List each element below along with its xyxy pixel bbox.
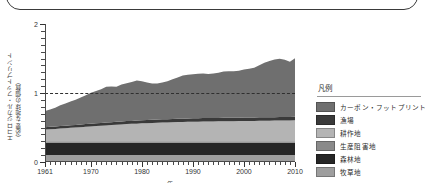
- y-axis-tick: [41, 128, 45, 129]
- y-axis-tick: [41, 148, 45, 149]
- x-axis-tick: [91, 162, 92, 167]
- x-axis-tick-label: 2000: [236, 168, 252, 175]
- x-axis-tick: [295, 162, 296, 167]
- x-axis-tick: [157, 162, 158, 165]
- x-axis-tick-label: 1990: [185, 168, 201, 175]
- x-axis-line: [45, 161, 295, 162]
- x-axis-tick: [147, 162, 148, 165]
- y-axis-tick: [41, 121, 45, 122]
- x-axis-tick: [142, 162, 143, 167]
- x-axis-tick: [193, 162, 194, 167]
- x-axis-tick: [45, 162, 46, 167]
- y-axis-tick: [41, 114, 45, 115]
- x-axis-tick: [65, 162, 66, 165]
- y-axis-tick: [41, 107, 45, 108]
- legend-item-label: 牧草地: [340, 167, 362, 177]
- legend-swatch-icon: [316, 141, 335, 151]
- legend-item-list: カーボン・フットプリント漁場耕作地生産阻害地森林地牧草地: [316, 101, 429, 178]
- plot-area: 012 196119701980199020002010 年: [45, 24, 295, 162]
- y-axis-tick: [41, 65, 45, 66]
- x-axis-tick: [167, 162, 168, 165]
- legend-item-label: 漁場: [340, 115, 354, 125]
- legend-item[interactable]: 漁場: [316, 114, 429, 126]
- ecological-footprint-chart: エコロジカル・フットプリント （必要な地球の個数） 012 1961197019…: [0, 14, 310, 183]
- x-axis-tick: [101, 162, 102, 165]
- y-axis-tick: [41, 45, 45, 46]
- y-axis-tick: [41, 79, 45, 80]
- x-axis-tick: [50, 162, 51, 165]
- y-axis-tick: [40, 24, 45, 25]
- x-axis-tick: [173, 162, 174, 165]
- y-axis-title-line2: （必要な地球の個数）: [16, 78, 22, 141]
- legend-item[interactable]: 耕作地: [316, 127, 429, 139]
- x-axis-tick: [178, 162, 179, 165]
- y-axis-tick: [41, 72, 45, 73]
- y-axis-tick: [40, 93, 45, 94]
- legend-item-label: カーボン・フットプリント: [340, 102, 426, 112]
- legend-title: 凡例: [318, 82, 429, 93]
- legend-item-label: 森林地: [340, 154, 362, 164]
- x-axis-tick: [76, 162, 77, 165]
- x-axis-tick: [116, 162, 117, 165]
- x-axis-tick: [203, 162, 204, 165]
- y-axis-tick: [41, 134, 45, 135]
- y-axis-tick: [41, 86, 45, 87]
- y-axis-tick: [41, 52, 45, 53]
- x-axis-tick: [285, 162, 286, 165]
- x-axis-tick: [81, 162, 82, 165]
- x-axis-tick: [290, 162, 291, 165]
- legend-swatch-icon: [316, 154, 335, 164]
- x-axis-tick: [208, 162, 209, 165]
- x-axis-tick: [239, 162, 240, 165]
- legend: 凡例 カーボン・フットプリント漁場耕作地生産阻害地森林地牧草地: [316, 82, 429, 179]
- y-axis-tick: [41, 100, 45, 101]
- y-axis-tick-label: 0: [34, 159, 38, 166]
- x-axis-tick: [254, 162, 255, 165]
- x-axis-tick: [60, 162, 61, 165]
- x-axis-tick: [152, 162, 153, 165]
- y-axis-tick: [41, 59, 45, 60]
- y-axis-title-line1: エコロジカル・フットプリント: [7, 53, 14, 141]
- x-axis-tick: [249, 162, 250, 165]
- x-axis-tick: [55, 162, 56, 165]
- x-axis-tick: [106, 162, 107, 165]
- x-axis-tick: [111, 162, 112, 165]
- x-axis-tick: [244, 162, 245, 167]
- y-axis-tick-label: 2: [34, 21, 38, 28]
- x-axis-tick: [224, 162, 225, 165]
- x-axis-tick: [280, 162, 281, 165]
- x-axis-tick: [229, 162, 230, 165]
- x-axis-tick: [188, 162, 189, 165]
- x-axis-tick: [71, 162, 72, 165]
- x-axis-tick-label: 1961: [37, 168, 53, 175]
- legend-item[interactable]: 生産阻害地: [316, 140, 429, 152]
- x-axis-tick: [183, 162, 184, 165]
- y-axis-tick-label: 1: [34, 90, 38, 97]
- x-axis-tick: [162, 162, 163, 165]
- x-axis-tick: [198, 162, 199, 165]
- x-axis-tick: [132, 162, 133, 165]
- x-axis-tick: [234, 162, 235, 165]
- x-axis-tick: [275, 162, 276, 165]
- x-axis-tick: [137, 162, 138, 165]
- y-axis-tick: [41, 155, 45, 156]
- x-axis-tick: [218, 162, 219, 165]
- legend-item-label: 耕作地: [340, 128, 362, 138]
- screenshot-root: エコロジカル・フットプリント （必要な地球の個数） 012 1961197019…: [0, 0, 429, 183]
- plot-frame: 012 196119701980199020002010: [45, 24, 295, 162]
- x-axis-tick: [213, 162, 214, 165]
- legend-item[interactable]: カーボン・フットプリント: [316, 101, 429, 113]
- legend-swatch-icon: [316, 115, 335, 125]
- legend-swatch-icon: [316, 102, 335, 112]
- x-axis-tick-label: 1980: [134, 168, 150, 175]
- x-axis-tick: [86, 162, 87, 165]
- x-axis-title: 年: [167, 179, 173, 183]
- x-axis-tick: [259, 162, 260, 165]
- legend-item[interactable]: 牧草地: [316, 166, 429, 178]
- x-axis-tick: [96, 162, 97, 165]
- legend-swatch-icon: [316, 167, 335, 177]
- legend-divider: [317, 96, 421, 97]
- page-border-frame: [6, 0, 418, 10]
- legend-item[interactable]: 森林地: [316, 153, 429, 165]
- legend-swatch-icon: [316, 128, 335, 138]
